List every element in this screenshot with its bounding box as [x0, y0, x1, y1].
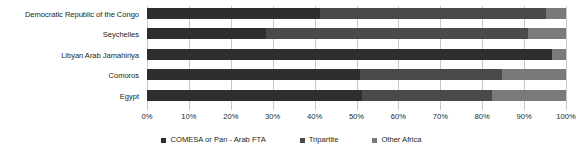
category-label: Comoros [0, 71, 139, 80]
bar-row[interactable] [147, 90, 566, 101]
category-label: Democratic Republic of the Congo [0, 10, 139, 19]
stacked-bar-chart: Democratic Republic of the CongoSeychell… [0, 0, 583, 149]
bar-segment[interactable] [320, 8, 546, 19]
tick-label: 40% [307, 112, 322, 122]
plot-area [147, 6, 566, 110]
legend-swatch-icon [161, 138, 166, 143]
legend-swatch-icon [372, 138, 377, 143]
gridline [566, 6, 567, 110]
chart-legend: COMESA or Pan - Arab FTATripartiteOther … [0, 134, 583, 146]
bar-row[interactable] [147, 8, 566, 19]
bar-segment[interactable] [546, 8, 566, 19]
bar-segment[interactable] [552, 49, 566, 60]
tick-label: 30% [265, 112, 280, 122]
legend-label: Tripartite [309, 135, 339, 145]
bar-row[interactable] [147, 69, 566, 80]
tick-label: 90% [516, 112, 531, 122]
tick-label: 10% [181, 112, 196, 122]
legend-item[interactable]: Other Africa [372, 135, 421, 145]
bar-segment[interactable] [492, 90, 566, 101]
tick-label: 80% [475, 112, 490, 122]
bar-segment[interactable] [360, 69, 502, 80]
legend-item[interactable]: COMESA or Pan - Arab FTA [161, 135, 265, 145]
tick-label: 100% [556, 112, 575, 122]
value-axis: 0%10%20%30%40%50%60%70%80%90%100% [147, 112, 566, 124]
bar-segment[interactable] [528, 28, 566, 39]
bar-segment[interactable] [147, 49, 552, 60]
tick-label: 0% [142, 112, 153, 122]
chart-top-edge [0, 0, 583, 2]
tick-label: 50% [349, 112, 364, 122]
bar-row[interactable] [147, 28, 566, 39]
tick-label: 60% [391, 112, 406, 122]
bar-segment[interactable] [502, 69, 566, 80]
legend-swatch-icon [300, 138, 305, 143]
bar-row[interactable] [147, 49, 566, 60]
legend-item[interactable]: Tripartite [300, 135, 339, 145]
bar-segment[interactable] [266, 28, 528, 39]
bar-segment[interactable] [362, 90, 492, 101]
legend-label: COMESA or Pan - Arab FTA [170, 135, 265, 145]
category-label: Egypt [0, 92, 139, 101]
bar-segment[interactable] [147, 28, 266, 39]
bar-segment[interactable] [147, 8, 320, 19]
legend-label: Other Africa [381, 135, 421, 145]
category-axis: Democratic Republic of the CongoSeychell… [0, 8, 143, 108]
bar-segment[interactable] [147, 90, 362, 101]
tick-label: 70% [433, 112, 448, 122]
category-label: Seychelles [0, 30, 139, 39]
bar-segment[interactable] [147, 69, 360, 80]
category-label: Libyan Arab Jamahiriya [0, 51, 139, 60]
tick-label: 20% [223, 112, 238, 122]
